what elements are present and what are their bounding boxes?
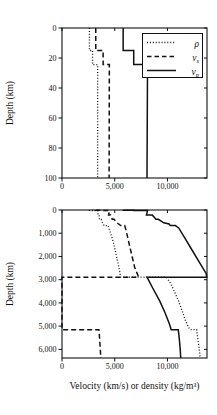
legend-item-vp: vp xyxy=(145,63,199,77)
svg-text:5,000: 5,000 xyxy=(39,322,57,331)
deep-plot-box xyxy=(62,210,207,358)
deep-x-axis-label: Velocity (km/s) or density (kg/m³) xyxy=(69,381,199,392)
svg-text:80: 80 xyxy=(49,144,57,153)
svg-text:100: 100 xyxy=(45,174,57,183)
deep-tick-labels: 05,00010,00001,0002,0003,0004,0005,0006,… xyxy=(39,206,179,371)
deep-vp-curve xyxy=(123,210,206,358)
shallow-density-curve xyxy=(89,28,97,178)
svg-text:60: 60 xyxy=(49,114,57,123)
shallow-vs-curve xyxy=(96,28,110,178)
deep-y-axis-label: Depth (km) xyxy=(5,262,16,306)
svg-text:3,000: 3,000 xyxy=(39,275,57,284)
svg-text:0: 0 xyxy=(60,182,64,191)
legend: ρ vs vp xyxy=(142,33,203,78)
svg-text:20: 20 xyxy=(49,54,57,63)
deep-series xyxy=(62,210,207,358)
dotted-line-sample xyxy=(145,35,178,49)
legend-item-density: ρ xyxy=(145,35,199,49)
shallow-series xyxy=(89,28,147,178)
svg-text:10,000: 10,000 xyxy=(156,182,178,191)
svg-text:0: 0 xyxy=(60,362,64,371)
svg-text:0: 0 xyxy=(53,24,57,33)
svg-text:1,000: 1,000 xyxy=(39,229,57,238)
solid-line-sample xyxy=(145,63,178,77)
figure-root: 05,00010,000020406080100Depth (km) 05,00… xyxy=(0,0,217,415)
shallow-y-axis-label: Depth (km) xyxy=(5,81,16,125)
svg-text:10,000: 10,000 xyxy=(156,362,178,371)
bottom-chart: 05,00010,00001,0002,0003,0004,0005,0006,… xyxy=(5,206,207,392)
svg-text:4,000: 4,000 xyxy=(39,299,57,308)
svg-text:2,000: 2,000 xyxy=(39,252,57,261)
svg-text:5,000: 5,000 xyxy=(106,182,124,191)
svg-text:0: 0 xyxy=(53,206,57,215)
svg-text:5,000: 5,000 xyxy=(106,362,124,371)
deep-vs-curve xyxy=(62,210,139,358)
deep-axis-ticks xyxy=(59,210,208,362)
deep-density-curve xyxy=(89,210,200,358)
dashed-line-sample xyxy=(145,49,178,63)
svg-text:40: 40 xyxy=(49,84,57,93)
svg-text:6,000: 6,000 xyxy=(39,345,57,354)
